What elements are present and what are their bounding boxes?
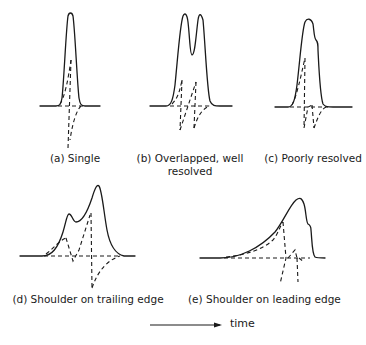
caption-panel-b-line2: resolved bbox=[130, 165, 250, 178]
caption-panel-b-line1: (b) Overlapped, well bbox=[130, 152, 250, 165]
caption-panel-b: (b) Overlapped, well resolved bbox=[130, 152, 250, 178]
caption-panel-c: (c) Poorly resolved bbox=[260, 152, 366, 165]
panel-c-poorly-resolved-peaks bbox=[275, 19, 352, 128]
panel-e-shoulder-leading-edge bbox=[200, 198, 325, 284]
panel-b-overlapped-peaks bbox=[150, 14, 232, 130]
time-axis-arrow bbox=[150, 323, 222, 328]
panel-a-single-peak bbox=[40, 13, 100, 148]
caption-panel-d: (d) Shoulder on trailing edge bbox=[8, 293, 168, 306]
time-axis-label: time bbox=[230, 317, 255, 330]
caption-panel-a: (a) Single bbox=[30, 152, 120, 165]
panel-d-shoulder-trailing-edge bbox=[20, 186, 135, 289]
caption-panel-e: (e) Shoulder on leading edge bbox=[188, 293, 338, 306]
